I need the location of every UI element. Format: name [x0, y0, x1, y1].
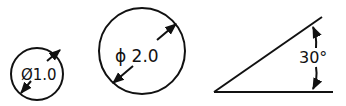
small-diameter-label: Ø1.0: [21, 66, 57, 84]
angle-arc-upper: [313, 27, 316, 48]
angle-callout: 30°: [214, 17, 333, 92]
large-diameter-callout: ϕ 2.0: [99, 8, 185, 94]
angle-label: 30°: [299, 48, 327, 67]
small-diameter-callout: Ø1.0: [11, 48, 63, 100]
dimension-diagram: Ø1.0 ϕ 2.0 30°: [0, 0, 346, 106]
large-diameter-label: ϕ 2.0: [115, 46, 159, 66]
large-diameter-arrow-lower: [113, 66, 133, 83]
large-diameter-arrow-upper: [157, 24, 176, 40]
angle-arc-lower: [313, 67, 317, 89]
